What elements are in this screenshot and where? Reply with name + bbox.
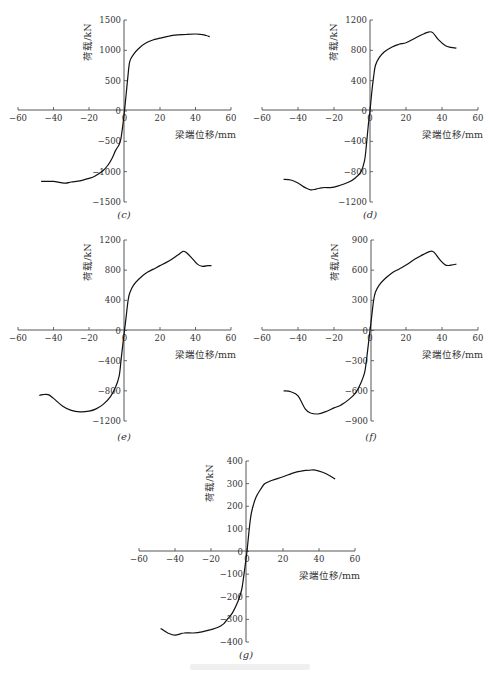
load-displacement-curve-negative xyxy=(284,331,370,415)
y-tick-label: −300 xyxy=(345,356,368,366)
x-tick-label: 20 xyxy=(155,333,166,343)
x-tick-label: −40 xyxy=(166,554,184,564)
x-tick-label: 40 xyxy=(314,554,325,564)
y-tick-label: −900 xyxy=(345,416,368,426)
y-tick-label: 0 xyxy=(238,547,243,557)
x-tick-label: −40 xyxy=(45,333,63,343)
y-tick-label: 0 xyxy=(363,326,368,336)
figure-caption xyxy=(190,664,310,670)
x-tick-label: 40 xyxy=(437,113,448,123)
x-axis-label: 梁端位移/mm xyxy=(299,570,360,581)
x-tick-label: −60 xyxy=(253,333,271,343)
x-tick-label: 60 xyxy=(473,333,484,343)
x-tick-label: −20 xyxy=(80,333,98,343)
chart-panel-f: −60−40−2002040609006003000−300−600−900荷载… xyxy=(253,235,483,442)
x-tick-label: 20 xyxy=(401,333,412,343)
x-tick-label: −60 xyxy=(9,333,27,343)
y-tick-label: 100 xyxy=(227,524,243,534)
y-tick-label: 1500 xyxy=(99,15,121,25)
load-displacement-curve-positive xyxy=(125,34,210,111)
x-tick-label: −20 xyxy=(80,113,98,123)
x-tick-label: −40 xyxy=(45,113,63,123)
x-tick-label: −40 xyxy=(289,113,307,123)
y-axis-label: 荷载/kN xyxy=(328,23,339,60)
x-tick-label: 20 xyxy=(155,113,166,123)
y-tick-label: −800 xyxy=(344,167,367,177)
y-tick-label: 500 xyxy=(105,76,121,86)
y-axis-label: 荷载/kN xyxy=(82,23,93,60)
y-tick-label: −400 xyxy=(220,637,243,647)
x-tick-label: 40 xyxy=(437,333,448,343)
y-tick-label: −400 xyxy=(344,136,367,146)
panel-label: (c) xyxy=(117,209,131,220)
y-tick-label: 800 xyxy=(351,45,367,55)
y-tick-label: 400 xyxy=(227,456,243,466)
chart-panel-d: −60−40−20020406012008004000−400−800−1200… xyxy=(253,15,483,220)
x-tick-label: −40 xyxy=(289,333,307,343)
y-tick-label: 300 xyxy=(227,479,243,489)
y-tick-label: 1200 xyxy=(99,235,121,245)
x-axis-label: 梁端位移/mm xyxy=(422,129,483,140)
load-displacement-curve-positive xyxy=(370,32,456,111)
x-tick-label: 40 xyxy=(190,333,201,343)
y-tick-label: 400 xyxy=(351,76,367,86)
x-tick-label: −20 xyxy=(325,333,343,343)
x-tick-label: 40 xyxy=(190,113,201,123)
y-tick-label: −400 xyxy=(98,356,121,366)
load-displacement-curve-positive xyxy=(247,470,335,552)
y-tick-label: −300 xyxy=(220,614,243,624)
y-tick-label: 900 xyxy=(352,235,368,245)
y-tick-label: 200 xyxy=(227,501,243,511)
y-tick-label: 1000 xyxy=(99,45,121,55)
panel-label: (g) xyxy=(239,649,253,660)
panel-label: (e) xyxy=(117,431,131,442)
chart-panel-e: −60−40−20020406012008004000−400−800−1200… xyxy=(9,235,236,442)
x-axis-label: 梁端位移/mm xyxy=(422,349,483,360)
panel-label: (f) xyxy=(365,431,377,442)
x-axis-label: 梁端位移/mm xyxy=(175,129,236,140)
x-tick-label: −60 xyxy=(130,554,148,564)
y-tick-label: 300 xyxy=(352,295,368,305)
y-tick-label: −1500 xyxy=(92,197,121,207)
y-tick-label: 0 xyxy=(362,106,367,116)
x-tick-label: 60 xyxy=(350,554,361,564)
load-displacement-curve-positive xyxy=(125,251,212,330)
x-tick-label: 60 xyxy=(473,113,484,123)
x-axis-label: 梁端位移/mm xyxy=(175,349,236,360)
x-tick-label: 20 xyxy=(278,554,289,564)
y-tick-label: 0 xyxy=(116,326,121,336)
x-tick-label: −20 xyxy=(325,113,343,123)
x-tick-label: −60 xyxy=(253,113,271,123)
chart-panel-g: −60−40−2002040604003002001000−100−200−30… xyxy=(130,456,360,660)
y-axis-label: 荷载/kN xyxy=(329,243,340,280)
x-tick-label: 60 xyxy=(226,113,237,123)
y-tick-label: 600 xyxy=(352,265,368,275)
y-tick-label: −800 xyxy=(98,386,121,396)
chart-panel-c: −60−40−200204060150010005000−500−1000−15… xyxy=(9,15,236,220)
y-tick-label: −500 xyxy=(98,136,121,146)
y-tick-label: 0 xyxy=(116,106,121,116)
y-tick-label: −1200 xyxy=(338,197,367,207)
y-tick-label: −100 xyxy=(220,569,243,579)
load-displacement-curve-positive xyxy=(370,251,456,330)
x-tick-label: −60 xyxy=(9,113,27,123)
y-tick-label: 1200 xyxy=(345,15,367,25)
y-tick-label: 800 xyxy=(105,265,121,275)
panel-label: (d) xyxy=(363,209,377,220)
y-tick-label: −1200 xyxy=(92,416,121,426)
x-tick-label: 60 xyxy=(226,333,237,343)
y-axis-label: 荷载/kN xyxy=(204,464,215,501)
y-axis-label: 荷载/kN xyxy=(82,243,93,280)
y-tick-label: 400 xyxy=(105,295,121,305)
charts-canvas: −60−40−200204060150010005000−500−1000−15… xyxy=(0,0,495,678)
x-tick-label: 20 xyxy=(401,113,412,123)
x-tick-label: −20 xyxy=(202,554,220,564)
